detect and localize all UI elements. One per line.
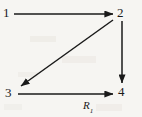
- diagram-canvas: 1 2 3 4 R1: [0, 0, 142, 117]
- edge-label-r1-base: R: [83, 99, 90, 111]
- edge-label-r1-subscript: 1: [90, 107, 94, 115]
- node-label-4: 4: [118, 85, 125, 98]
- node-label-1: 1: [3, 6, 10, 19]
- edge-label-r1: R1: [83, 100, 93, 114]
- edge-2-to-3: [21, 20, 113, 86]
- node-label-2: 2: [117, 6, 124, 19]
- node-label-3: 3: [5, 86, 12, 99]
